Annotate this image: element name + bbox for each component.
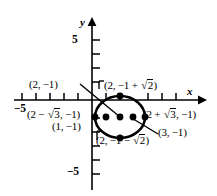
point-inner-right	[130, 114, 137, 121]
label-top-point-prefix: (2, −1 +	[104, 79, 140, 91]
sqrt-icon: √3	[47, 108, 60, 120]
y-tick-label-neg5: −5	[67, 166, 79, 178]
label-bottom-point-prefix: (2, −1 −	[96, 134, 132, 146]
point-left	[92, 114, 99, 121]
label-top-point: (2, −1 + √2)	[104, 79, 157, 91]
point-center	[117, 114, 124, 121]
label-right-point: (2 + √3, −1)	[143, 108, 196, 120]
label-right-point-prefix: (2 +	[143, 108, 163, 120]
label-left-point-radicand: 3	[54, 108, 60, 120]
label-left-point-suffix: , −1)	[60, 108, 80, 120]
label-left-point: (2 − √3, −1)	[27, 108, 80, 120]
label-inner-left-point: (1, −1)	[52, 121, 81, 132]
label-right-point-suffix: , −1)	[176, 108, 196, 120]
y-axis	[88, 17, 100, 190]
point-top	[117, 93, 124, 100]
y-axis-label: y	[80, 17, 85, 28]
label-top-point-suffix: )	[153, 79, 156, 91]
label-left-point-prefix: (2 −	[27, 108, 47, 120]
label-top-point-radicand: 2	[147, 79, 153, 91]
label-bottom-point-suffix: )	[145, 134, 148, 146]
math-diagram: x y 5 −5 −5 (2, −1) (2, −1 + √2) (2 − √3…	[0, 0, 217, 196]
label-inner-right-point: (3, −1)	[158, 127, 187, 138]
coordinate-plane-graphic	[0, 0, 217, 196]
point-inner-left	[103, 114, 110, 121]
x-tick-label-neg5: −5	[14, 103, 26, 115]
label-bottom-point: (2, −1 − √2)	[96, 134, 149, 146]
label-bottom-point-radicand: 2	[139, 134, 145, 146]
label-center-point: (2, −1)	[29, 79, 58, 90]
x-axis-label: x	[187, 86, 192, 97]
label-right-point-radicand: 3	[170, 108, 176, 120]
sqrt-icon: √2	[132, 134, 145, 146]
sqrt-icon: √3	[163, 108, 176, 120]
sqrt-icon: √2	[140, 79, 153, 91]
y-tick-label-5: 5	[72, 34, 78, 46]
